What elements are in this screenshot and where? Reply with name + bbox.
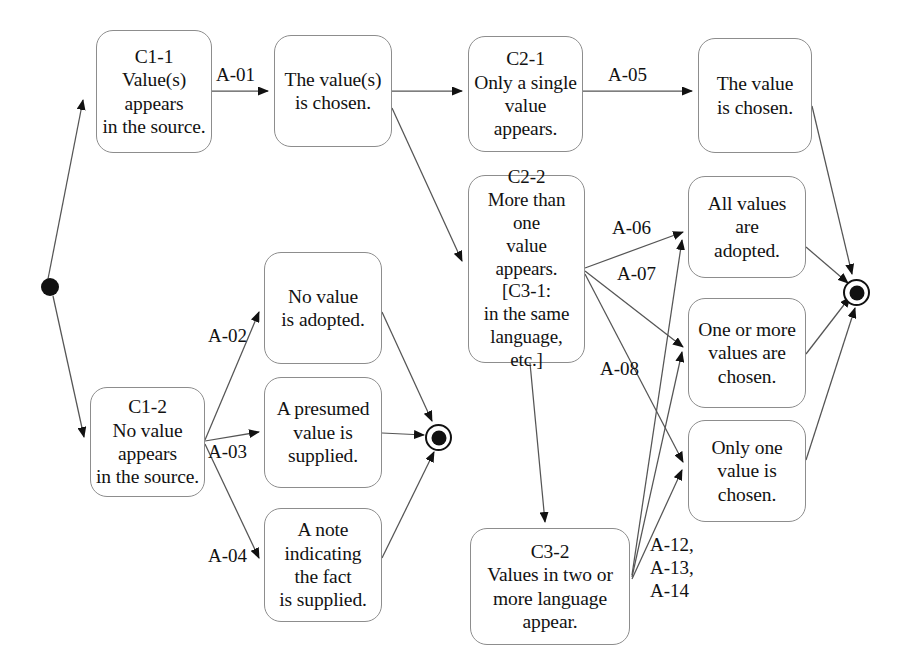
edge-label-a04: A-04	[208, 544, 247, 567]
edge-onlyone-to-final	[806, 308, 855, 460]
edge-note-to-final-left	[382, 452, 434, 558]
edge-initial-to-c1-1	[48, 100, 83, 279]
node-the-values-is-chosen[interactable]: The value(s) is chosen.	[274, 35, 392, 147]
edge-novalue-to-final-left	[382, 312, 432, 421]
edge-label-a01: A-01	[216, 63, 255, 86]
node-one-or-more-values-are-chosen[interactable]: One or more values are chosen.	[688, 298, 806, 408]
edge-label-a03: A-03	[208, 440, 247, 463]
edge-thevalue-to-final-right	[812, 106, 852, 274]
node-all-values-are-adopted[interactable]: All values are adopted.	[688, 176, 806, 278]
edge-label-a02: A-02	[208, 324, 247, 347]
edge-oneormore-to-final	[806, 297, 850, 354]
edge-c2-2-to-c3-2	[530, 363, 545, 522]
node-a-note-indicating-the-fact[interactable]: A note indicating the fact is supplied.	[264, 508, 382, 622]
node-c2-2[interactable]: C2-2 More than one value appears. [C3-1:…	[468, 175, 585, 363]
edge-label-a06: A-06	[612, 216, 651, 239]
final-state-left-core	[431, 430, 446, 445]
final-state-right-core	[849, 285, 864, 300]
edge-label-a08: A-08	[600, 357, 639, 380]
edge-presumed-to-final-left	[382, 433, 424, 435]
initial-state	[41, 278, 59, 296]
node-c3-2[interactable]: C3-2 Values in two or more language appe…	[470, 528, 630, 645]
edge-label-a07: A-07	[617, 262, 656, 285]
node-c1-2[interactable]: C1-2 No value appears in the source.	[90, 387, 205, 497]
final-state-left	[425, 424, 452, 451]
node-c1-1[interactable]: C1-1 Value(s) appears in the source.	[96, 30, 212, 153]
edge-label-a12-a13-a14: A-12, A-13, A-14	[650, 533, 694, 603]
edge-initial-to-c1-2	[53, 296, 84, 437]
node-the-value-is-chosen[interactable]: The value is chosen.	[698, 38, 812, 153]
node-no-value-is-adopted[interactable]: No value is adopted.	[264, 252, 382, 364]
final-state-right	[843, 279, 870, 306]
edge-a12	[632, 240, 682, 575]
node-only-one-value-is-chosen[interactable]: Only one value is chosen.	[688, 420, 806, 522]
edge-allvalues-to-final	[806, 247, 848, 283]
node-a-presumed-value-is-supplied[interactable]: A presumed value is supplied.	[264, 377, 382, 488]
activity-diagram-canvas: C1-1 Value(s) appears in the source. The…	[0, 0, 914, 664]
edge-valuechosen-to-c2-2	[392, 108, 462, 261]
node-c2-1[interactable]: C2-1 Only a single value appears.	[468, 36, 583, 152]
edge-label-a05: A-05	[608, 63, 647, 86]
